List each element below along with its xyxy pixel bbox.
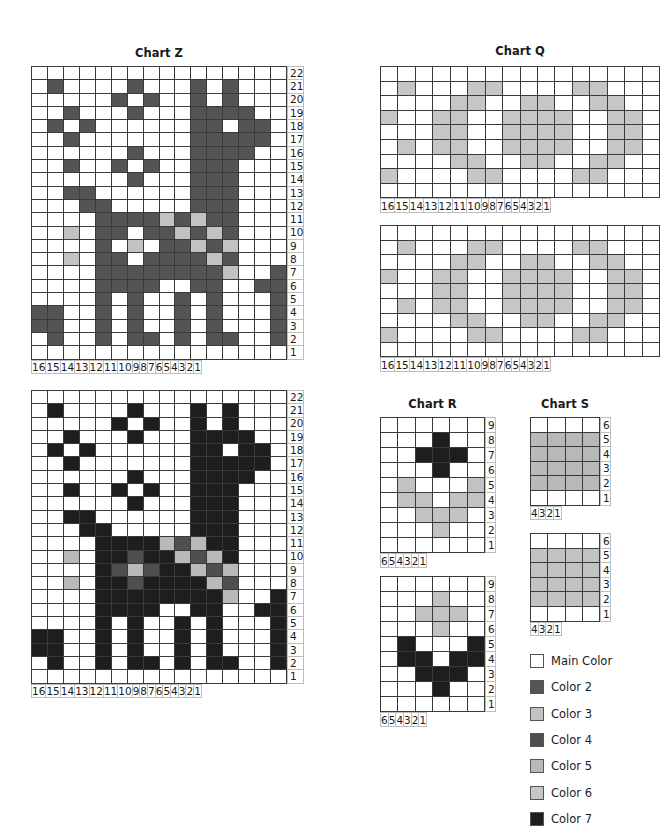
stitch-cell: [381, 226, 398, 241]
stitch-cell: [79, 293, 95, 306]
stitch-cell: [607, 110, 624, 125]
stitch-cell: [239, 319, 255, 332]
stitch-cell: [143, 67, 159, 80]
stitch-cell: [79, 617, 95, 630]
stitch-cell: [95, 133, 111, 146]
stitch-cell: [555, 81, 572, 96]
stitch-cell: [79, 603, 95, 616]
row-number: 3: [486, 667, 496, 682]
stitch-cell: [555, 298, 572, 313]
row-number: 3: [288, 643, 304, 656]
stitch-cell: [433, 154, 450, 169]
stitch-cell: [642, 139, 659, 154]
stitch-cell: [503, 110, 520, 125]
stitch-cell: [590, 96, 607, 111]
stitch-cell: [520, 169, 537, 184]
column-number: 14: [60, 360, 74, 373]
stitch-cell: [159, 306, 175, 319]
stitch-cell: [239, 510, 255, 523]
stitch-cell: [572, 328, 589, 343]
stitch-cell: [63, 630, 79, 643]
stitch-cell: [143, 617, 159, 630]
stitch-cell: [433, 226, 450, 241]
column-number: 3: [178, 360, 186, 373]
stitch-cell: [143, 630, 159, 643]
stitch-cell: [175, 617, 191, 630]
stitch-cell: [191, 497, 207, 510]
stitch-cell: [520, 328, 537, 343]
stitch-cell: [381, 240, 398, 255]
stitch-cell: [127, 563, 143, 576]
column-number: 6: [504, 358, 512, 372]
stitch-cell: [485, 298, 502, 313]
row-number: 6: [288, 279, 304, 292]
row-number: 13: [288, 510, 304, 523]
stitch-cell: [207, 444, 223, 457]
stitch-cell: [415, 328, 432, 343]
stitch-cell: [223, 590, 239, 603]
stitch-cell: [255, 484, 271, 497]
legend-label: Color 3: [551, 707, 592, 721]
stitch-cell: [191, 391, 207, 404]
stitch-cell: [381, 139, 398, 154]
stitch-cell: [191, 186, 207, 199]
stitch-cell: [175, 67, 191, 80]
stitch-cell: [159, 510, 175, 523]
stitch-cell: [625, 313, 642, 328]
stitch-cell: [590, 269, 607, 284]
stitch-cell: [47, 319, 63, 332]
stitch-cell: [127, 293, 143, 306]
column-number: 15: [395, 358, 409, 372]
stitch-cell: [255, 643, 271, 656]
stitch-cell: [642, 269, 659, 284]
stitch-cell: [450, 652, 467, 667]
stitch-cell: [485, 342, 502, 357]
stitch-cell: [450, 125, 467, 140]
column-number: 4: [396, 713, 404, 727]
row-number: 5: [486, 478, 496, 493]
stitch-cell: [32, 656, 48, 669]
stitch-cell: [47, 457, 63, 470]
column-number: 10: [467, 358, 481, 372]
stitch-cell: [433, 298, 450, 313]
stitch-cell: [607, 154, 624, 169]
stitch-cell: [175, 133, 191, 146]
column-number: 14: [409, 358, 423, 372]
stitch-cell: [415, 433, 432, 448]
column-number: 4: [171, 684, 179, 697]
stitch-cell: [255, 93, 271, 106]
stitch-cell: [111, 173, 127, 186]
stitch-cell: [63, 603, 79, 616]
stitch-cell: [255, 617, 271, 630]
stitch-cell: [143, 470, 159, 483]
stitch-cell: [607, 342, 624, 357]
stitch-cell: [565, 476, 582, 491]
stitch-cell: [159, 590, 175, 603]
row-number: 3: [486, 508, 496, 523]
stitch-cell: [159, 470, 175, 483]
stitch-cell: [271, 617, 287, 630]
stitch-cell: [468, 298, 485, 313]
stitch-cell: [63, 332, 79, 345]
stitch-cell: [520, 139, 537, 154]
column-number: 6: [381, 554, 389, 568]
column-number: 5: [388, 713, 396, 727]
row-number: 14: [288, 497, 304, 510]
stitch-cell: [207, 404, 223, 417]
stitch-cell: [79, 146, 95, 159]
stitch-cell: [381, 255, 398, 270]
stitch-cell: [32, 226, 48, 239]
stitch-cell: [127, 199, 143, 212]
stitch-cell: [537, 125, 554, 140]
stitch-cell: [175, 213, 191, 226]
stitch-cell: [175, 186, 191, 199]
stitch-cell: [111, 603, 127, 616]
chart-s-title: Chart S: [530, 397, 600, 411]
stitch-cell: [191, 120, 207, 133]
stitch-cell: [95, 577, 111, 590]
stitch-cell: [255, 106, 271, 119]
stitch-cell: [95, 404, 111, 417]
stitch-cell: [63, 80, 79, 93]
stitch-cell: [32, 444, 48, 457]
stitch-cell: [271, 279, 287, 292]
